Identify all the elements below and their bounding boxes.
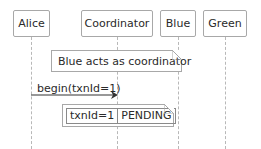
note-transaction-state: txnId=1 PENDING xyxy=(62,104,174,127)
note-blue-coordinator: Blue acts as coordinator xyxy=(51,50,182,72)
cell-txn-id: txnId=1 xyxy=(67,109,117,123)
state-table: txnId=1 PENDING xyxy=(66,108,176,124)
folded-corner-icon xyxy=(164,104,174,114)
participant-blue: Blue xyxy=(160,10,196,37)
lifeline-green xyxy=(225,37,226,149)
folded-corner-icon xyxy=(172,50,182,60)
participant-coordinator: Coordinator xyxy=(81,10,153,37)
participant-alice: Alice xyxy=(13,10,50,37)
participant-green: Green xyxy=(203,10,247,37)
message-arrow-begin xyxy=(31,90,121,100)
